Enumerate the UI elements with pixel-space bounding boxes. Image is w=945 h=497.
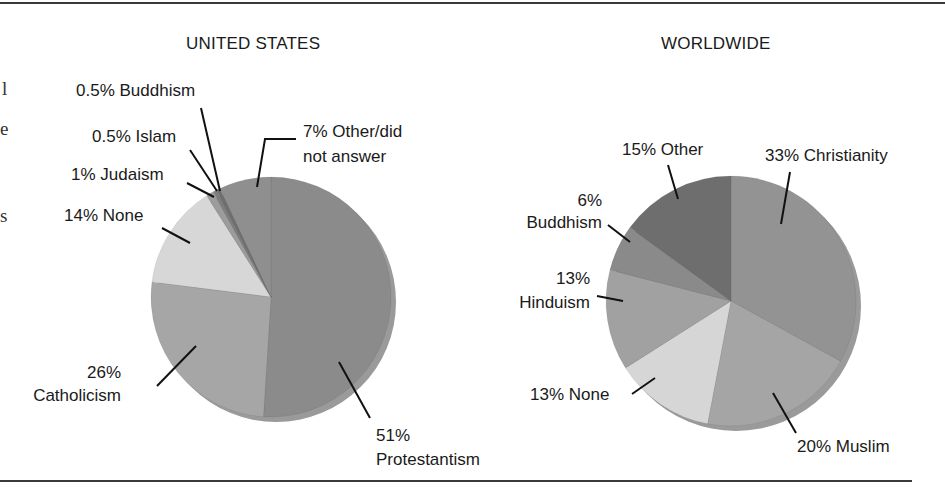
label-us-catholicism-pct: 26% [70,362,121,383]
label-world-hinduism-pct: 13% [520,268,590,289]
us-pie-chart [151,177,396,422]
world-chart-title: WORLDWIDE [661,34,770,54]
leader-line-us-judaism [187,183,214,197]
label-world-none: 13% None [530,384,609,405]
label-world-buddhism-name: Buddhism [502,212,602,233]
label-world-hinduism-name: Hinduism [496,292,590,313]
label-us-protestantism-name: Protestantism [376,449,480,470]
label-us-other-line1: 7% Other/did [303,121,402,142]
world-pie-chart [606,176,861,431]
us-chart-title: UNITED STATES [186,34,320,54]
label-us-protestantism-pct: 51% [376,425,410,446]
label-world-other: 15% Other [622,139,703,160]
label-world-buddhism-pct: 6% [540,190,602,211]
label-us-islam: 0.5% Islam [92,126,176,147]
pie-slice-catholicism [151,282,271,417]
label-us-none: 14% None [64,205,143,226]
charts-canvas [0,0,945,497]
label-world-christianity: 33% Christianity [765,145,888,166]
label-us-catholicism-name: Catholicism [17,385,121,406]
label-world-muslim: 20% Muslim [797,436,890,457]
leader-line-us-buddhism [201,108,220,191]
label-us-buddhism: 0.5% Buddhism [76,80,195,101]
label-us-judaism: 1% Judaism [71,164,164,185]
label-us-other-line2: not answer [303,146,386,167]
pie-slice-protestantism [263,177,391,417]
